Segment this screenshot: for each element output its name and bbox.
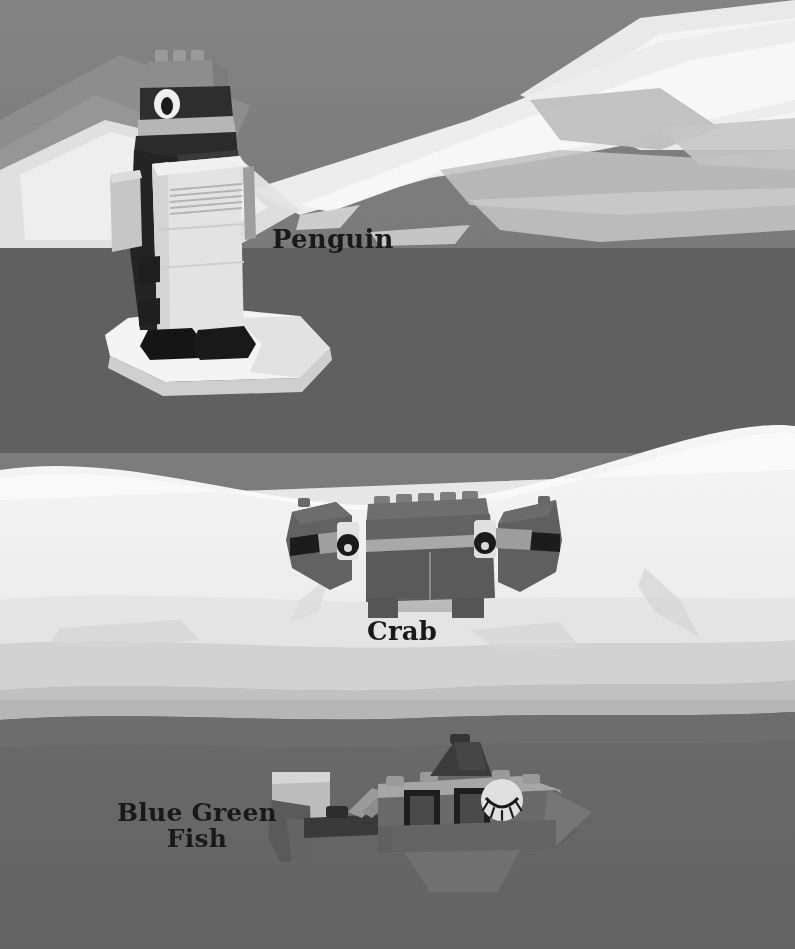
fish-tail-stud <box>326 806 348 818</box>
fish-window-right-pane <box>460 794 484 824</box>
label-crab: Crab <box>367 618 437 645</box>
fish-under-shadow <box>404 850 520 892</box>
lego-builds-page: Penguin Crab Blue Green Fish <box>0 0 795 949</box>
label-blue-green-fish: Blue Green Fish <box>117 800 277 851</box>
fish-window-left-pane <box>410 796 434 826</box>
fish-tail-fin-top <box>272 772 330 784</box>
label-penguin: Penguin <box>272 226 394 253</box>
